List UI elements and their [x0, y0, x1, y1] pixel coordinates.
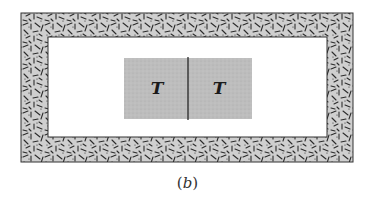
block-right-label: T [213, 78, 227, 98]
caption-close-paren: ) [192, 174, 198, 192]
block-left-label: T [151, 78, 165, 98]
caption-letter: b [183, 174, 193, 192]
figure-caption: (b) [0, 174, 375, 192]
